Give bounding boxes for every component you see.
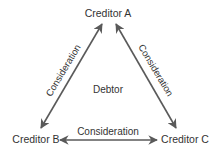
node-creditor-a: Creditor A [85, 7, 132, 19]
node-creditor-c: Creditor C [161, 133, 209, 145]
edge-label-b-c: Consideration [77, 126, 139, 137]
debtor-creditor-diagram: Creditor A Creditor B Creditor C Debtor … [0, 0, 218, 158]
node-debtor: Debtor [93, 84, 124, 95]
node-creditor-b: Creditor B [12, 133, 59, 145]
arrow-a-b [41, 24, 102, 128]
